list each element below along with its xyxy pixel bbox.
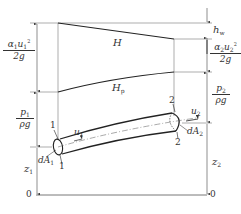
diagram-lines (0, 0, 241, 214)
velocity-head-2: α2u22 2g (210, 43, 241, 64)
piezometric-head-label: Hp (112, 83, 125, 93)
pressure-head-2: p2 ρg (212, 84, 230, 105)
section-1-top: 1 (50, 121, 56, 130)
head-loss-label: hw (213, 25, 225, 35)
reference-lines (30, 23, 212, 195)
area-1-label: dA1 (38, 156, 54, 165)
pressure-head-1: p1 ρg (16, 108, 34, 129)
section-2-top: 2 (169, 96, 175, 105)
datum-left-label: 0 (26, 190, 32, 199)
section-1-bottom: 1 (59, 162, 65, 171)
elevation-1-label: z1 (24, 164, 33, 174)
total-head-label: H (113, 38, 122, 48)
velocity-2-label: u2 (191, 107, 201, 116)
area-2-label: dA2 (187, 127, 203, 136)
bernoulli-diagram: H Hp hw α1u12 2g α2u22 2g p1 ρg p2 ρg z1… (0, 0, 241, 214)
velocity-head-1: α1u12 2g (3, 40, 35, 61)
section-2-bottom: 2 (175, 138, 181, 147)
velocity-1-label: u1 (74, 128, 84, 137)
stream-tube (46, 104, 198, 164)
datum-right-label: 0 (210, 190, 216, 199)
elevation-2-label: z2 (212, 157, 221, 167)
